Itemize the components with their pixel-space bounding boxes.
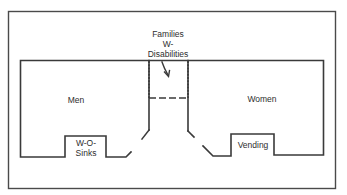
families-label-line-1: Families <box>152 29 184 39</box>
arrow-icon <box>162 62 170 77</box>
men-label: Men <box>68 95 85 105</box>
sinks-label-line-1: W-O- <box>76 138 96 148</box>
women-label: Women <box>247 94 276 104</box>
families-label-line-3: Disabilities <box>148 49 189 59</box>
left-corridor-wall <box>142 130 149 139</box>
sinks-label-line-2: Sinks <box>76 148 97 158</box>
families-label-line-2: W- <box>163 39 174 49</box>
right-corridor-wall <box>188 131 194 137</box>
floor-plan-diagram: Families W- Disabilities Men Women W-O- … <box>0 0 347 195</box>
vending-label: Vending <box>238 140 269 150</box>
